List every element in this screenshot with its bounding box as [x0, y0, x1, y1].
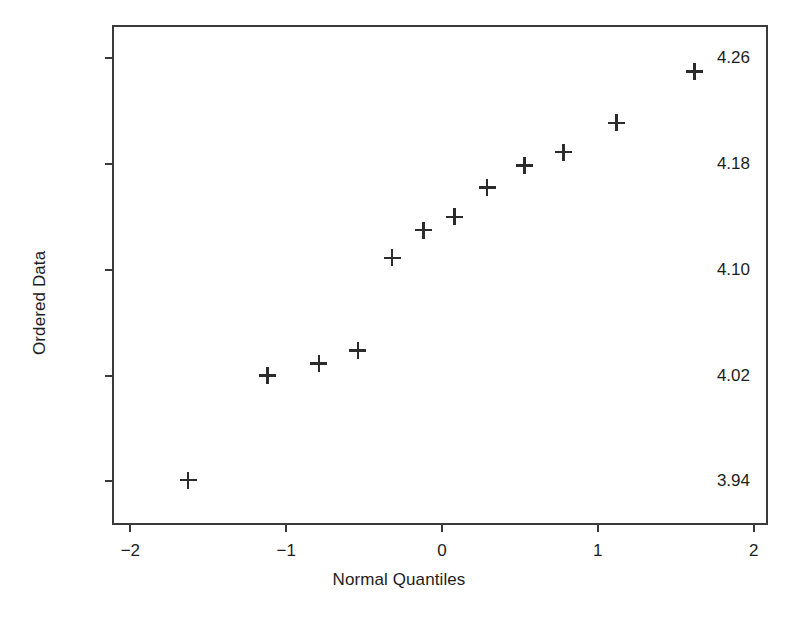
data-point-marker [479, 179, 496, 196]
data-point-marker [384, 249, 401, 266]
data-point-marker [349, 342, 366, 359]
y-tick-label: 4.02 [717, 366, 750, 386]
plot-area: −2−1012 3.944.024.104.184.26 [112, 25, 768, 525]
qq-plot-figure: −2−1012 3.944.024.104.184.26 Normal Quan… [0, 0, 798, 622]
x-tick-label: −2 [121, 541, 140, 561]
y-axis-title: Ordered Data [30, 155, 50, 355]
y-tick-mark [105, 480, 114, 482]
data-point-marker [180, 472, 197, 489]
data-point-marker [608, 114, 625, 131]
data-point-marker [415, 222, 432, 239]
y-tick-label: 4.26 [717, 48, 750, 68]
x-tick-mark [129, 523, 131, 532]
data-point-marker [555, 144, 572, 161]
y-tick-label: 4.10 [717, 260, 750, 280]
x-axis-title: Normal Quantiles [0, 570, 798, 590]
x-tick-label: 2 [749, 541, 758, 561]
x-tick-mark [285, 523, 287, 532]
x-tick-mark [441, 523, 443, 532]
y-tick-mark [105, 163, 114, 165]
data-point-marker [686, 63, 703, 80]
y-tick-mark [105, 269, 114, 271]
data-point-marker [446, 208, 463, 225]
y-tick-label: 3.94 [717, 471, 750, 491]
x-tick-label: −1 [276, 541, 295, 561]
y-tick-mark [105, 375, 114, 377]
x-tick-label: 1 [593, 541, 602, 561]
x-tick-label: 0 [437, 541, 446, 561]
x-tick-mark [597, 523, 599, 532]
cropped-caption [0, 612, 798, 622]
data-point-marker [516, 157, 533, 174]
data-point-marker [259, 367, 276, 384]
data-point-marker [310, 355, 327, 372]
y-tick-mark [105, 57, 114, 59]
y-tick-label: 4.18 [717, 154, 750, 174]
x-tick-mark [753, 523, 755, 532]
